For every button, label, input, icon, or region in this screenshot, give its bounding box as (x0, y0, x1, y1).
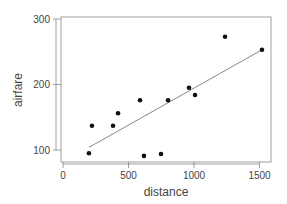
regression-line (89, 50, 262, 148)
scatter-plot: 100200300 050010001500 distance airfare (0, 0, 287, 204)
data-point (193, 93, 198, 98)
data-point (87, 151, 92, 156)
data-point (111, 123, 116, 128)
data-point (116, 111, 121, 116)
x-tick-label: 500 (120, 170, 137, 181)
y-axis: 100200300 (33, 14, 61, 156)
x-axis-label: distance (144, 185, 189, 199)
y-tick-label: 200 (33, 79, 50, 90)
data-point (166, 98, 171, 103)
data-point (260, 47, 265, 52)
data-point (90, 123, 95, 128)
y-tick-label: 300 (33, 14, 50, 25)
data-point (223, 34, 228, 39)
plot-frame (61, 17, 271, 162)
data-point (138, 98, 143, 103)
y-tick-label: 100 (33, 145, 50, 156)
x-tick-label: 0 (60, 170, 66, 181)
data-point (142, 154, 147, 159)
x-tick-label: 1500 (248, 170, 271, 181)
data-points (87, 34, 265, 158)
x-axis: 050010001500 (60, 162, 271, 181)
y-axis-label: airfare (11, 73, 25, 107)
data-point (159, 152, 164, 157)
data-point (187, 85, 192, 90)
x-tick-label: 1000 (183, 170, 206, 181)
